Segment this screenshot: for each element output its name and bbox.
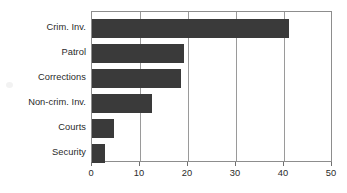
x-tick-mark [187, 162, 188, 166]
bar-chart-figure: Crim. Inv.PatrolCorrectionsNon-crim. Inv… [0, 0, 347, 193]
x-tick-label: 10 [134, 168, 144, 179]
category-axis-label: Corrections [0, 72, 86, 83]
value-axis: 01020304050 [91, 162, 332, 188]
x-tick-label: 30 [230, 168, 240, 179]
bar [92, 119, 114, 138]
x-tick-mark [235, 162, 236, 166]
x-tick-mark [283, 162, 284, 166]
bar [92, 69, 181, 88]
x-tick-label: 20 [182, 168, 192, 179]
category-axis-label: Courts [0, 122, 86, 133]
category-axis-label: Crim. Inv. [0, 22, 86, 33]
plot-area [91, 11, 332, 162]
category-axis: Crim. Inv.PatrolCorrectionsNon-crim. Inv… [0, 11, 86, 162]
category-axis-label: Patrol [0, 47, 86, 58]
x-tick-mark [331, 162, 332, 166]
bar [92, 94, 152, 113]
bar [92, 19, 289, 38]
category-axis-label: Security [0, 147, 86, 158]
bar [92, 144, 105, 163]
x-tick-label: 0 [88, 168, 93, 179]
x-tick-label: 40 [278, 168, 288, 179]
x-tick-mark [91, 162, 92, 166]
x-tick-mark [139, 162, 140, 166]
category-axis-label: Non-crim. Inv. [0, 97, 86, 108]
bar [92, 44, 184, 63]
x-tick-label: 50 [326, 168, 336, 179]
